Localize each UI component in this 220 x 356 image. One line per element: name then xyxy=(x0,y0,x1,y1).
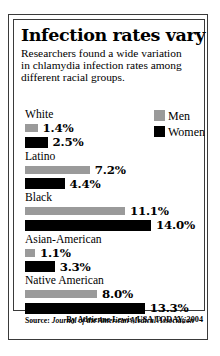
bar-group: Latino7.2%4.4% xyxy=(25,150,205,192)
bar-value-women: 14.0% xyxy=(156,219,195,231)
bar-value-women: 3.3% xyxy=(60,261,91,273)
bar-men xyxy=(25,166,90,174)
bar-value-men: 1.1% xyxy=(40,247,71,259)
subtitle-line-3: different racial groups. xyxy=(21,71,197,83)
bar-men xyxy=(25,207,125,215)
bar-group-label: Latino xyxy=(25,150,205,164)
bar-group-label: Black xyxy=(25,191,205,205)
bar-value-men: 1.4% xyxy=(43,122,74,134)
bar-group-label: Asian-American xyxy=(25,233,205,247)
bar-group: Native American8.0%13.3% xyxy=(25,274,205,316)
bar-women xyxy=(25,303,145,314)
bar-row-women: 14.0% xyxy=(25,218,205,233)
bar-row-men: 11.1% xyxy=(25,205,205,218)
bar-group: Asian-American1.1%3.3% xyxy=(25,233,205,275)
bar-group: White1.4%2.5% xyxy=(25,108,205,150)
bar-row-women: 13.3% xyxy=(25,301,205,316)
infographic-card: Infection rates vary Researchers found a… xyxy=(8,14,208,340)
bar-group-label: White xyxy=(25,108,205,122)
subtitle: Researchers found a wide variation in ch… xyxy=(21,47,197,84)
page-title: Infection rates vary xyxy=(21,26,197,45)
bar-row-men: 8.0% xyxy=(25,288,205,301)
bar-women xyxy=(25,137,48,148)
bar-women xyxy=(25,261,55,272)
bar-women xyxy=(25,178,65,189)
bar-group-label: Native American xyxy=(25,274,205,288)
bar-men xyxy=(25,290,97,298)
bar-row-women: 2.5% xyxy=(25,135,205,150)
bar-value-women: 4.4% xyxy=(70,178,101,190)
infographic-inner-frame: Infection rates vary Researchers found a… xyxy=(13,19,205,311)
bar-men xyxy=(25,124,38,132)
bar-row-men: 1.4% xyxy=(25,122,205,135)
bar-value-women: 13.3% xyxy=(150,302,189,314)
bar-value-women: 2.5% xyxy=(53,136,84,148)
subtitle-line-2: in chlamydia infection rates among xyxy=(21,59,197,71)
bar-men xyxy=(25,249,35,257)
bar-row-women: 4.4% xyxy=(25,176,205,191)
bar-value-men: 8.0% xyxy=(102,288,133,300)
bar-row-men: 7.2% xyxy=(25,163,205,176)
bar-row-women: 3.3% xyxy=(25,259,205,274)
bar-value-men: 11.1% xyxy=(130,205,169,217)
bar-group: Black11.1%14.0% xyxy=(25,191,205,233)
subtitle-line-1: Researchers found a wide variation xyxy=(21,47,197,59)
bar-row-men: 1.1% xyxy=(25,246,205,259)
bar-women xyxy=(25,220,151,231)
byline: By Adrienne Lewis, USA TODAY, 2004 xyxy=(9,315,203,325)
bar-value-men: 7.2% xyxy=(95,164,126,176)
bar-chart: White1.4%2.5%Latino7.2%4.4%Black11.1%14.… xyxy=(25,108,205,316)
